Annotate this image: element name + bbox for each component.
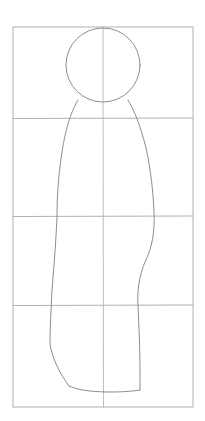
figure-drawing-svg — [0, 0, 205, 421]
grid-line-center-axis — [103, 27, 104, 407]
paper-background — [0, 0, 205, 421]
sketch-canvas — [0, 0, 205, 421]
